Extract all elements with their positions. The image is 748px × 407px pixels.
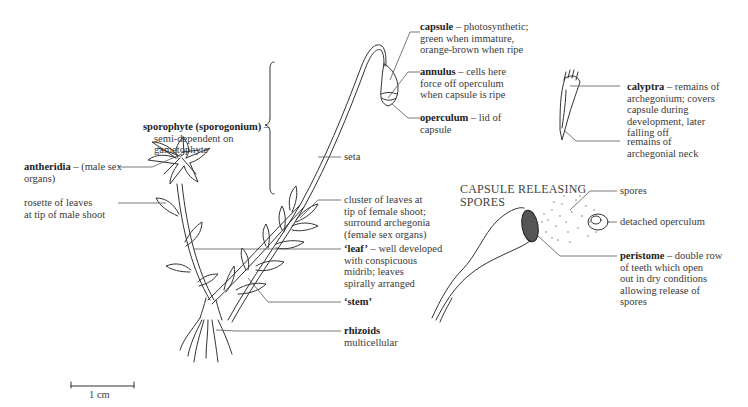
label-cluster: cluster of leaves at tip of female shoot… [344, 194, 430, 240]
label-peristome: peristome – double row of teeth which op… [620, 250, 722, 308]
capsule-drawing [381, 64, 398, 106]
detached-operculum-drawing [588, 214, 608, 230]
label-leaf: ‘leaf’ – well developed with conspicuous… [344, 243, 442, 289]
calyptra-drawing [560, 70, 580, 140]
label-detached-operculum: detached operculum [620, 216, 705, 228]
stem-base [200, 298, 222, 320]
label-capsule: capsule – photosynthetic; green when imm… [420, 21, 529, 56]
label-spores: spores [620, 185, 647, 197]
rhizoids-drawing [180, 318, 232, 362]
label-rosette: rosette of leaves at tip of male shoot [24, 197, 105, 220]
label-rhizoids: rhizoids multicellular [344, 325, 398, 348]
title-capsule-releasing-spores: CAPSULE RELEASING SPORES [460, 183, 586, 209]
scale-bar [71, 382, 134, 388]
label-archegonial-neck: remains of archegonial neck [627, 136, 698, 159]
label-antheridia: antheridia – (male sex organs) [24, 161, 122, 184]
label-operculum: operculum – lid of capsule [420, 112, 501, 135]
label-sporophyte: sporophyte (sporogonium) – semi-dependen… [143, 121, 269, 156]
label-stem: ‘stem’ [344, 296, 372, 308]
label-annulus: annulus – cells here force off operculum… [420, 66, 506, 101]
label-calyptra: calyptra – remains of archegonium; cover… [627, 81, 719, 139]
label-seta: seta [344, 151, 360, 163]
scale-bar-label: 1 cm [89, 389, 110, 400]
releasing-capsule-drawing [432, 208, 541, 322]
